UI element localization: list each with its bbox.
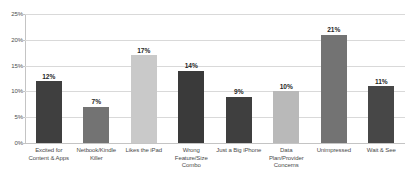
bar-value-label: 7% <box>92 98 101 105</box>
bar-value-label: 11% <box>375 78 388 85</box>
category-label: Data Plan/Provider Concerns <box>263 147 311 170</box>
y-tick-label: 10% <box>0 88 23 94</box>
bar-chart: 0%5%10%15%20%25% 12%7%17%14%9%10%21%11% … <box>0 0 411 178</box>
bar[interactable] <box>83 107 109 143</box>
y-tick-mark <box>22 143 25 144</box>
bar-group: 7% <box>73 14 121 143</box>
category-label: Wrong Feature/Size Combo <box>168 147 216 170</box>
y-tick-mark <box>22 40 25 41</box>
bar-group: 17% <box>120 14 168 143</box>
bar-group: 14% <box>168 14 216 143</box>
bar-group: 10% <box>263 14 311 143</box>
bar-value-label: 14% <box>185 62 198 69</box>
category-label: Excited for Content & Apps <box>25 147 73 162</box>
bar-series: 12%7%17%14%9%10%21%11% <box>25 14 405 143</box>
category-label: Netbook/Kindle Killer <box>73 147 121 162</box>
bar-value-label: 21% <box>327 26 340 33</box>
y-tick-mark <box>22 66 25 67</box>
bar-group: 11% <box>358 14 406 143</box>
y-tick-label: 0% <box>0 140 23 146</box>
y-tick-mark <box>22 91 25 92</box>
y-tick-label: 15% <box>0 63 23 69</box>
y-tick-label: 20% <box>0 37 23 43</box>
bar-group: 9% <box>215 14 263 143</box>
y-tick-mark <box>22 117 25 118</box>
category-label: Likes the iPad <box>120 147 168 155</box>
y-tick-label: 25% <box>0 11 23 17</box>
y-axis: 0%5%10%15%20%25% <box>0 0 23 178</box>
category-label: Just a Big iPhone <box>215 147 263 155</box>
x-axis-categories: Excited for Content & AppsNetbook/Kindle… <box>25 147 405 178</box>
bar[interactable] <box>178 71 204 143</box>
bar[interactable] <box>226 97 252 143</box>
category-label: Wait & See <box>358 147 406 155</box>
category-label: Unimpressed <box>310 147 358 155</box>
bar[interactable] <box>131 55 157 143</box>
bar[interactable] <box>273 91 299 143</box>
bar[interactable] <box>321 35 347 143</box>
bar[interactable] <box>36 81 62 143</box>
bar-group: 12% <box>25 14 73 143</box>
y-tick-label: 5% <box>0 114 23 120</box>
gridline-0 <box>25 143 405 144</box>
bar-value-label: 17% <box>137 47 150 54</box>
bar-value-label: 9% <box>234 88 243 95</box>
y-tick-mark <box>22 14 25 15</box>
bar-value-label: 10% <box>280 83 293 90</box>
bar-value-label: 12% <box>42 73 55 80</box>
bar[interactable] <box>368 86 394 143</box>
bar-group: 21% <box>310 14 358 143</box>
